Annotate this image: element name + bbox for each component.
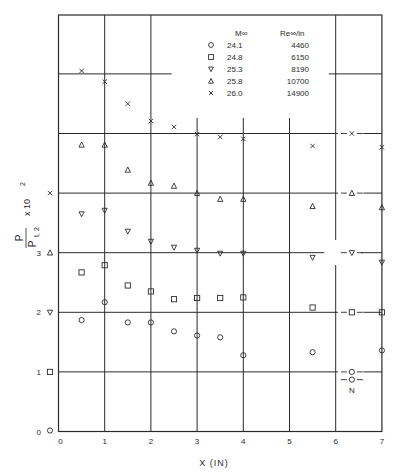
data-point bbox=[79, 142, 84, 147]
data-point bbox=[172, 125, 176, 129]
plot-border bbox=[59, 15, 382, 432]
data-point bbox=[218, 251, 223, 256]
data-point bbox=[79, 69, 83, 73]
triangle-down-icon bbox=[310, 255, 315, 260]
legend-symbol-icon bbox=[209, 78, 214, 83]
legend-mach: 25.3 bbox=[227, 65, 243, 74]
legend-reynolds: 8190 bbox=[291, 65, 309, 74]
y-label-exponent: 2 bbox=[19, 182, 26, 186]
square-icon bbox=[171, 297, 176, 302]
x-axis-ticks: 01234567 bbox=[58, 437, 384, 446]
x-tick-label: 5 bbox=[287, 437, 292, 446]
y-tick-label: 0 bbox=[37, 428, 42, 437]
annotation-label: N bbox=[349, 386, 355, 395]
triangle-down-icon bbox=[218, 251, 223, 256]
reference-markers: N bbox=[341, 131, 363, 394]
data-point bbox=[125, 283, 130, 288]
triangle-up-marker-icon bbox=[349, 190, 354, 195]
legend-reynolds: 14900 bbox=[287, 89, 310, 98]
data-point bbox=[310, 255, 315, 260]
plot-frame bbox=[59, 15, 382, 432]
reference-marker bbox=[341, 377, 363, 382]
data-point bbox=[79, 270, 84, 275]
y-tick-symbol bbox=[47, 428, 52, 433]
data-point bbox=[218, 295, 223, 300]
data-point bbox=[310, 203, 315, 208]
data-point bbox=[126, 101, 130, 105]
triangle-down-icon bbox=[171, 245, 176, 250]
data-point bbox=[79, 317, 84, 322]
y-label-denominator: P bbox=[27, 240, 38, 247]
square-icon bbox=[125, 283, 130, 288]
legend: M∞Re∞/in24.1446024.8615025.3819025.81070… bbox=[209, 29, 310, 98]
legend-symbol-icon bbox=[209, 67, 214, 72]
square-icon bbox=[349, 310, 354, 315]
data-point bbox=[125, 167, 130, 172]
y-tick-symbol bbox=[47, 310, 52, 315]
square-icon bbox=[218, 295, 223, 300]
reference-marker bbox=[341, 190, 363, 195]
legend-reynolds: 6150 bbox=[291, 53, 309, 62]
y-label-multiplier: x 10 bbox=[22, 199, 32, 216]
x-tick-label: 4 bbox=[241, 437, 246, 446]
x-icon bbox=[48, 191, 52, 195]
legend-mach: 24.8 bbox=[227, 53, 243, 62]
circle-icon bbox=[171, 329, 176, 334]
data-point bbox=[218, 335, 223, 340]
chart-plot: N 01234567 0123 M∞Re∞/in24.1446024.86150… bbox=[0, 0, 399, 476]
data-points bbox=[79, 69, 385, 358]
triangle-up-icon bbox=[171, 183, 176, 188]
square-icon bbox=[79, 270, 84, 275]
x-icon bbox=[209, 91, 213, 95]
data-point bbox=[79, 212, 84, 217]
y-tick-label: 2 bbox=[37, 308, 42, 317]
circle-icon bbox=[218, 335, 223, 340]
legend-entry: 24.14460 bbox=[209, 41, 310, 50]
x-tick-label: 1 bbox=[102, 437, 107, 446]
legend-entry: 25.38190 bbox=[209, 65, 310, 74]
data-point bbox=[218, 196, 223, 201]
x-tick-label: 2 bbox=[149, 437, 154, 446]
data-point bbox=[218, 135, 222, 139]
y-tick-label: 1 bbox=[37, 368, 42, 377]
legend-symbol-icon bbox=[209, 55, 214, 60]
legend-reynolds: 10700 bbox=[287, 77, 310, 86]
legend-entry: 26.014900 bbox=[209, 89, 310, 98]
triangle-down-icon bbox=[125, 229, 130, 234]
x-tick-label: 0 bbox=[58, 437, 63, 446]
pressure-distribution-chart: N 01234567 0123 M∞Re∞/in24.1446024.86150… bbox=[0, 0, 399, 476]
reference-marker bbox=[341, 251, 363, 256]
x-icon bbox=[172, 125, 176, 129]
square-icon bbox=[47, 369, 52, 374]
x-marker-icon bbox=[350, 131, 354, 135]
y-tick-symbol bbox=[47, 369, 52, 374]
triangle-up-icon bbox=[218, 196, 223, 201]
y-axis-label: P P t, 2 x 10 2 bbox=[14, 182, 40, 248]
circle-icon bbox=[310, 350, 315, 355]
circle-icon bbox=[79, 317, 84, 322]
x-icon bbox=[79, 69, 83, 73]
triangle-up-icon bbox=[209, 78, 214, 83]
x-tick-label: 7 bbox=[380, 437, 385, 446]
series-triangle-up bbox=[79, 142, 385, 210]
data-point bbox=[171, 183, 176, 188]
data-point bbox=[171, 245, 176, 250]
square-icon bbox=[209, 55, 214, 60]
legend-mach: 26.0 bbox=[227, 89, 243, 98]
x-tick-label: 3 bbox=[195, 437, 200, 446]
y-label-denominator-sub: t, 2 bbox=[33, 227, 40, 237]
legend-mach: 25.8 bbox=[227, 77, 243, 86]
y-tick-symbol bbox=[48, 191, 52, 195]
series-circle bbox=[79, 300, 385, 358]
series-square bbox=[79, 263, 385, 315]
reference-marker bbox=[341, 310, 363, 315]
reference-marker bbox=[341, 131, 363, 135]
circle-icon bbox=[47, 428, 52, 433]
x-icon bbox=[218, 135, 222, 139]
legend-mach: 24.1 bbox=[227, 41, 243, 50]
circle-icon bbox=[349, 369, 354, 374]
circle-marker-icon bbox=[349, 369, 354, 374]
data-point bbox=[171, 329, 176, 334]
y-label-numerator: P bbox=[14, 234, 25, 241]
series-triangle-down bbox=[79, 208, 385, 265]
